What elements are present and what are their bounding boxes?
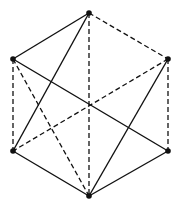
edge-LR-B-solid (89, 151, 168, 196)
hexagon-graph-diagram (0, 0, 186, 211)
vertex-LR (165, 148, 171, 154)
edge-T-UL-solid (13, 13, 89, 59)
edge-UR-B-solid (89, 59, 168, 196)
vertex-T (86, 10, 92, 16)
vertex-UL (10, 56, 16, 62)
vertex-B (86, 193, 92, 199)
edge-LL-B-solid (13, 151, 89, 196)
edge-T-UR-dashed (89, 13, 168, 59)
vertex-LL (10, 148, 16, 154)
edges-group (13, 13, 168, 196)
vertex-UR (165, 56, 171, 62)
edge-UL-B-dashed (13, 59, 89, 196)
